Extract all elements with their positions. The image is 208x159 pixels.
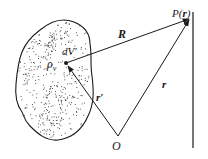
stipple-dot — [20, 68, 21, 69]
stipple-dot — [49, 93, 50, 94]
stipple-dot — [53, 105, 54, 106]
stipple-dot — [46, 134, 47, 135]
stipple-dot — [66, 113, 67, 114]
stipple-dot — [42, 130, 43, 131]
stipple-dot — [64, 87, 65, 88]
stipple-dot — [66, 67, 67, 68]
stipple-dot — [65, 32, 66, 33]
stipple-dot — [39, 120, 40, 121]
stipple-dot — [78, 92, 79, 93]
stipple-dot — [53, 120, 54, 121]
stipple-dot — [71, 135, 72, 136]
stipple-dot — [36, 115, 37, 116]
stipple-dot — [20, 62, 21, 63]
stipple-dot — [67, 31, 68, 32]
stipple-dot — [61, 27, 62, 28]
stipple-dot — [34, 90, 35, 91]
stipple-dot — [51, 92, 52, 93]
stipple-dot — [34, 74, 35, 75]
stipple-dot — [58, 127, 59, 128]
stipple-dot — [81, 76, 82, 77]
stipple-dot — [61, 103, 62, 104]
stipple-dot — [81, 95, 82, 96]
stipple-dot — [57, 123, 58, 124]
stipple-dot — [41, 102, 42, 103]
stipple-dot — [53, 49, 54, 50]
stipple-dot — [63, 97, 64, 98]
stipple-dot — [65, 31, 66, 32]
stipple-dot — [47, 129, 48, 130]
stipple-dot — [52, 37, 53, 38]
stipple-dot — [49, 129, 50, 130]
stipple-dot — [63, 89, 64, 90]
stipple-dot — [48, 112, 49, 113]
stipple-dot — [76, 111, 77, 112]
stipple-dot — [44, 125, 45, 126]
stipple-dot — [43, 85, 44, 86]
stipple-dot — [40, 132, 41, 133]
stipple-dot — [80, 109, 81, 110]
stipple-dot — [34, 39, 35, 40]
stipple-dot — [38, 123, 39, 124]
stipple-dot — [59, 124, 60, 125]
stipple-dot — [60, 91, 61, 92]
stipple-dot — [69, 74, 70, 75]
stipple-dot — [67, 35, 68, 36]
stipple-dot — [51, 45, 52, 46]
stipple-dot — [72, 40, 73, 41]
stipple-dot — [76, 32, 77, 33]
stipple-dot — [64, 72, 65, 73]
stipple-dot — [87, 81, 88, 82]
stipple-dot — [60, 30, 61, 31]
stipple-dot — [36, 97, 37, 98]
stipple-dot — [40, 41, 41, 42]
stipple-dot — [38, 127, 39, 128]
stipple-dot — [60, 97, 61, 98]
stipple-dot — [55, 31, 56, 32]
stipple-dot — [43, 89, 44, 90]
stipple-dot — [74, 57, 75, 58]
stipple-dot — [67, 106, 68, 107]
stipple-dot — [79, 25, 80, 26]
stipple-dot — [52, 41, 53, 42]
stipple-dot — [32, 95, 33, 96]
stipple-dot — [52, 50, 53, 51]
stipple-dot — [31, 42, 32, 43]
stipple-dot — [54, 38, 55, 39]
stipple-dot — [71, 129, 72, 130]
stipple-dot — [60, 121, 61, 122]
electrostatics-diagram: dV′ ρv P(r) R r r′ O — [0, 0, 208, 159]
stipple-dot — [29, 48, 30, 49]
stipple-dot — [79, 80, 80, 81]
stipple-dot — [89, 76, 90, 77]
stipple-dot — [71, 102, 72, 103]
stipple-dot — [65, 133, 66, 134]
stipple-dot — [56, 120, 57, 121]
stipple-dot — [58, 100, 59, 101]
stipple-dot — [27, 81, 28, 82]
stipple-dot — [39, 35, 40, 36]
stipple-dot — [64, 77, 65, 78]
stipple-dot — [53, 42, 54, 43]
charge-density-label: ρv — [46, 57, 57, 73]
stipple-dot — [72, 98, 73, 99]
stipple-dot — [74, 97, 75, 98]
stipple-dot — [48, 106, 49, 107]
stipple-dot — [78, 70, 79, 71]
stipple-dot — [69, 24, 70, 25]
origin-label: O — [112, 139, 121, 153]
stipple-dot — [40, 65, 41, 66]
vector-R-label: R — [117, 27, 126, 41]
stipple-dot — [48, 45, 49, 46]
stipple-dot — [56, 97, 57, 98]
stipple-dot — [65, 88, 66, 89]
stipple-dot — [48, 94, 49, 95]
stipple-dot — [43, 97, 44, 98]
stipple-dot — [39, 116, 40, 117]
stipple-dot — [38, 56, 39, 57]
stipple-dot — [30, 70, 31, 71]
stipple-dot — [61, 125, 62, 126]
stipple-dot — [73, 96, 74, 97]
stipple-dot — [47, 120, 48, 121]
stipple-dot — [41, 114, 42, 115]
